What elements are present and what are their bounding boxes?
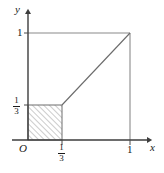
y-axis-label: y xyxy=(15,4,20,15)
x-tick-label-one: 1 xyxy=(127,144,133,155)
fraction-numerator: 1 xyxy=(58,143,65,152)
origin-label: O xyxy=(19,143,27,154)
hatched-region xyxy=(28,105,62,140)
x-tick-label-one-third: 1 3 xyxy=(58,143,65,163)
y-tick-label-one-third: 1 3 xyxy=(13,96,20,116)
fraction-one-third-x: 1 3 xyxy=(58,143,65,163)
y-tick-label-one: 1 xyxy=(17,27,23,38)
x-axis-label: x xyxy=(150,142,155,153)
fraction-one-third-y: 1 3 xyxy=(13,96,20,116)
fraction-denominator: 3 xyxy=(13,107,20,116)
figure-container: y x O 1 1 3 1 3 1 xyxy=(0,0,164,173)
fraction-numerator: 1 xyxy=(13,96,20,105)
diagonal-line xyxy=(62,33,130,105)
fraction-denominator: 3 xyxy=(58,154,65,163)
